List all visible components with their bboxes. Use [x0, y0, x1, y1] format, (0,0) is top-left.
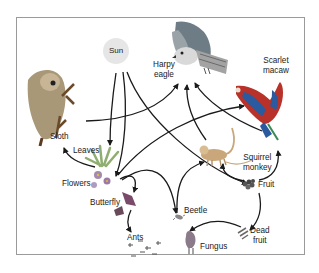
scarlet-macaw-image	[236, 82, 284, 140]
leaves-label: Leaves	[73, 146, 99, 156]
arrow-fruit-monkey	[223, 164, 244, 181]
arrow-sun-leaves	[110, 73, 116, 145]
sun-label: Sun	[103, 46, 129, 55]
arrow-sun-flowers	[116, 72, 125, 176]
dead-fruit-image	[238, 228, 248, 239]
flowers-image	[91, 171, 111, 188]
sun-node: Sun	[103, 38, 129, 64]
harpy-eagle-image	[172, 21, 228, 74]
squirrel-monkey-label: Squirrel monkey	[243, 153, 272, 173]
fruit-image	[243, 179, 256, 190]
arrow-fruit-deadfruit	[250, 193, 260, 230]
arrow-flowers-macaw	[118, 106, 244, 175]
fruit-label: Fruit	[258, 180, 274, 190]
food-web-arrows	[0, 0, 319, 273]
butterfly-label: Butterfly	[90, 198, 120, 208]
arrow-deadfruit-fungus	[190, 221, 241, 231]
dead-fruit-label: Dead fruit	[250, 226, 270, 246]
ants-label: Ants	[127, 233, 143, 243]
beetle-label: Beetle	[184, 206, 207, 216]
flowers-label: Flowers	[62, 179, 91, 189]
arrow-butterfly-ants	[128, 210, 131, 232]
harpy-eagle-label: Harpy eagle	[153, 60, 175, 80]
scarlet-macaw-label: Scarlet macaw	[263, 56, 289, 76]
sloth-label: Sloth	[50, 132, 69, 142]
fungus-label: Fungus	[200, 242, 227, 252]
arrow-sloth-eagle	[86, 84, 178, 121]
ants-image	[128, 241, 161, 256]
arrow-flowers-butterfly	[120, 176, 135, 192]
fungus-image	[185, 231, 195, 254]
